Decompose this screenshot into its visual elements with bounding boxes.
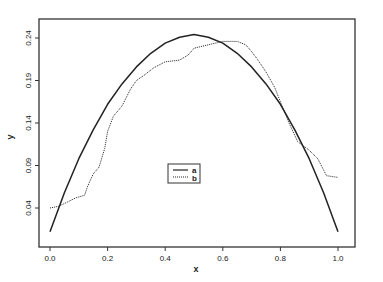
y-tick-label: 0.14: [24, 115, 33, 131]
line-chart: 0.00.20.40.60.81.0 0.040.090.140.190.24 …: [0, 0, 383, 282]
legend-label-b: b: [192, 174, 197, 183]
legend: a b: [168, 164, 200, 183]
y-axis: 0.040.090.140.190.24: [24, 30, 39, 216]
series-line-a: [50, 35, 338, 232]
x-axis: 0.00.20.40.60.81.0: [44, 247, 344, 263]
plot-frame: [39, 19, 355, 247]
x-tick-label: 0.0: [44, 254, 56, 263]
y-tick-label: 0.19: [24, 72, 33, 88]
x-tick-label: 0.6: [217, 254, 229, 263]
x-axis-label: x: [193, 264, 198, 274]
y-tick-label: 0.09: [24, 157, 33, 173]
y-axis-label: y: [5, 134, 15, 139]
y-tick-label: 0.24: [24, 30, 33, 46]
x-tick-label: 0.4: [160, 254, 172, 263]
y-tick-label: 0.04: [24, 200, 33, 216]
x-tick-label: 1.0: [332, 254, 344, 263]
series-layer: [50, 35, 338, 232]
x-tick-label: 0.8: [275, 254, 287, 263]
x-tick-label: 0.2: [102, 254, 114, 263]
